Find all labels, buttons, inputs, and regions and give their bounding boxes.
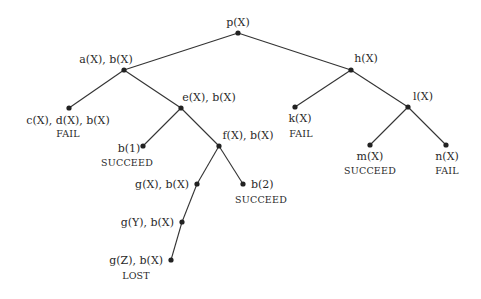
node-status-n: FAIL bbox=[435, 165, 459, 176]
node-label-e: e(X), b(X) bbox=[182, 91, 235, 104]
node-label-b2: b(2) bbox=[251, 178, 274, 191]
node-status-k: FAIL bbox=[289, 128, 313, 139]
node-label-l: l(X) bbox=[413, 90, 433, 103]
node-label-gY: g(Y), b(X) bbox=[121, 216, 174, 229]
node-dot-b1 bbox=[140, 143, 145, 148]
node-dot-b2 bbox=[240, 181, 245, 186]
node-dot-gX bbox=[194, 181, 199, 186]
node-dot-a bbox=[121, 67, 126, 72]
node-label-m: m(X) bbox=[357, 150, 384, 163]
edge-p-a bbox=[124, 33, 238, 70]
edge-a-c bbox=[69, 70, 124, 108]
edge-h-k bbox=[295, 70, 351, 107]
edge-p-h bbox=[238, 33, 351, 70]
node-label-h: h(X) bbox=[354, 52, 378, 65]
node-status-b2: SUCCEED bbox=[235, 194, 287, 205]
node-label-n: n(X) bbox=[435, 150, 459, 163]
node-status-c: FAIL bbox=[56, 128, 80, 139]
node-dot-k bbox=[292, 104, 297, 109]
search-tree-diagram: p(X) a(X), b(X) c(X), d(X), b(X) FAIL e(… bbox=[0, 0, 481, 299]
node-label-b1: b(1) bbox=[118, 142, 141, 155]
node-dot-h bbox=[348, 67, 353, 72]
edge-f-gX bbox=[197, 146, 219, 184]
node-status-gZ: LOST bbox=[122, 270, 150, 281]
node-label-f: f(X), b(X) bbox=[223, 129, 274, 142]
node-status-b1: SUCCEED bbox=[101, 157, 153, 168]
node-dot-n bbox=[443, 142, 448, 147]
node-label-p: p(X) bbox=[226, 16, 249, 29]
edge-e-b1 bbox=[143, 108, 181, 146]
node-label-a: a(X), b(X) bbox=[79, 53, 132, 66]
edge-e-f bbox=[181, 108, 219, 146]
node-label-k: k(X) bbox=[288, 112, 311, 125]
node-dot-p bbox=[235, 30, 240, 35]
node-dot-c bbox=[66, 105, 71, 110]
node-dot-m bbox=[367, 142, 372, 147]
edge-a-e bbox=[124, 70, 181, 108]
node-dot-gY bbox=[179, 219, 184, 224]
node-dot-e bbox=[178, 105, 183, 110]
node-label-gZ: g(Z), b(X) bbox=[109, 254, 163, 267]
node-dot-f bbox=[216, 143, 221, 148]
node-status-m: SUCCEED bbox=[344, 165, 396, 176]
node-label-c: c(X), d(X), b(X) bbox=[26, 114, 109, 127]
edge-f-b2 bbox=[219, 146, 243, 184]
node-dot-gZ bbox=[168, 257, 173, 262]
edge-h-l bbox=[351, 70, 408, 107]
node-label-gX: g(X), b(X) bbox=[135, 178, 189, 191]
edge-l-n bbox=[408, 107, 446, 145]
node-dot-l bbox=[405, 104, 410, 109]
tree-labels: p(X) a(X), b(X) c(X), d(X), b(X) FAIL e(… bbox=[26, 16, 459, 281]
edge-l-m bbox=[370, 107, 408, 145]
